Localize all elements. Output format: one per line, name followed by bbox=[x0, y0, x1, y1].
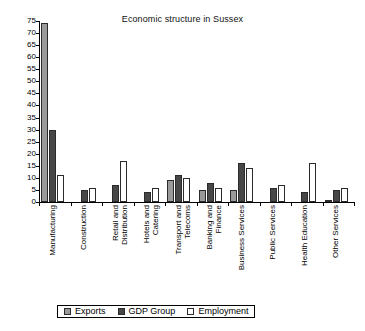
bar-group bbox=[134, 21, 166, 202]
bar bbox=[183, 178, 190, 202]
bar bbox=[112, 185, 119, 202]
bar bbox=[246, 168, 253, 202]
bar-group bbox=[102, 21, 134, 202]
bar bbox=[309, 163, 316, 202]
bar-group bbox=[260, 21, 292, 202]
bar-group bbox=[39, 21, 71, 202]
x-axis-label: Hotels and Catering bbox=[142, 205, 156, 297]
x-axis-label: Retail and Distribution bbox=[111, 205, 125, 297]
bar bbox=[144, 192, 151, 202]
bar bbox=[41, 23, 48, 202]
y-tick-label: 0 bbox=[14, 198, 36, 206]
bar-group bbox=[165, 21, 197, 202]
legend-item[interactable]: Employment bbox=[187, 307, 248, 316]
x-axis-label: Health Education bbox=[300, 205, 314, 297]
bar bbox=[270, 188, 277, 202]
y-tick-label: 45 bbox=[14, 89, 36, 97]
bar bbox=[341, 188, 348, 202]
x-axis-labels: ManufacturingConstructionRetail and Dist… bbox=[39, 205, 354, 297]
bar bbox=[89, 188, 96, 202]
y-tick-label: 25 bbox=[14, 138, 36, 146]
bar bbox=[175, 175, 182, 202]
bar bbox=[301, 192, 308, 202]
y-tick-label: 5 bbox=[14, 186, 36, 194]
bar bbox=[167, 180, 174, 202]
y-tick-label: 50 bbox=[14, 77, 36, 85]
legend-label: GDP Group bbox=[129, 307, 176, 316]
x-axis-label: Business Services bbox=[237, 205, 251, 297]
bar bbox=[49, 130, 56, 202]
legend-label: Exports bbox=[75, 307, 106, 316]
y-tick-label: 65 bbox=[14, 41, 36, 49]
bar bbox=[325, 200, 332, 202]
x-tick-mark bbox=[354, 202, 355, 206]
y-tick-label: 40 bbox=[14, 101, 36, 109]
legend-label: Employment bbox=[198, 307, 248, 316]
x-axis-label: Banking and Finance bbox=[205, 205, 219, 297]
bar bbox=[333, 190, 340, 202]
bar-group bbox=[197, 21, 229, 202]
legend-swatch-icon bbox=[187, 308, 194, 315]
bar bbox=[81, 190, 88, 202]
y-tick-label: 15 bbox=[14, 162, 36, 170]
y-tick-label: 70 bbox=[14, 29, 36, 37]
x-axis-label: Transport and Telecoms bbox=[174, 205, 188, 297]
bar bbox=[57, 175, 64, 202]
y-tick-label: 55 bbox=[14, 65, 36, 73]
bar-group bbox=[323, 21, 355, 202]
bar bbox=[152, 188, 159, 202]
y-tick-label: 10 bbox=[14, 174, 36, 182]
bar bbox=[207, 183, 214, 202]
bar-group bbox=[71, 21, 103, 202]
chart-legend: ExportsGDP GroupEmployment bbox=[57, 305, 255, 318]
bar bbox=[215, 188, 222, 202]
y-tick-label: 75 bbox=[14, 17, 36, 25]
legend-item[interactable]: Exports bbox=[64, 307, 106, 316]
bar bbox=[238, 163, 245, 202]
y-tick-label: 30 bbox=[14, 126, 36, 134]
plot-area: 051015202530354045505560657075 bbox=[39, 21, 354, 202]
legend-swatch-icon bbox=[118, 308, 125, 315]
x-axis-label: Manufacturing bbox=[48, 205, 62, 297]
x-axis-label: Other Services bbox=[331, 205, 345, 297]
x-axis-label: Public Services bbox=[268, 205, 282, 297]
bar-group bbox=[228, 21, 260, 202]
bar-group bbox=[291, 21, 323, 202]
bar bbox=[278, 185, 285, 202]
legend-item[interactable]: GDP Group bbox=[118, 307, 176, 316]
y-tick-label: 35 bbox=[14, 114, 36, 122]
chart-container: Economic structure in Sussex 05101520253… bbox=[0, 0, 365, 331]
y-tick-label: 60 bbox=[14, 53, 36, 61]
bar bbox=[120, 161, 127, 202]
bar bbox=[199, 190, 206, 202]
legend-swatch-icon bbox=[64, 308, 71, 315]
y-tick-label: 20 bbox=[14, 150, 36, 158]
x-axis-label: Construction bbox=[79, 205, 93, 297]
bar bbox=[230, 190, 237, 202]
